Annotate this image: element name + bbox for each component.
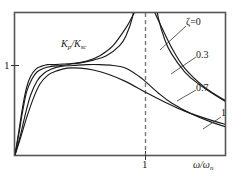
- curve-label-zeta-0: ζ=0: [186, 17, 201, 27]
- frequency-response-chart: 1 1 Kp/Ksc ω/ωn ζ=0 0.3 0.7 1: [0, 0, 240, 178]
- curve-label-0-3: 0.3: [196, 50, 209, 60]
- curve-label-0-7: 0.7: [196, 83, 209, 93]
- x-axis-label-sub-n: n: [210, 164, 214, 172]
- x-axis-label-omega: ω/ω: [193, 159, 210, 170]
- x-axis-tick-label-1: 1: [142, 159, 148, 170]
- x-axis-label: ω/ωn: [193, 160, 213, 172]
- y-axis-label-slash-K: /K: [71, 38, 80, 49]
- y-axis-label: Kp/Ksc: [61, 39, 86, 51]
- y-axis-tick-label-1: 1: [4, 60, 10, 71]
- y-axis-label-sub-sc: sc: [81, 43, 87, 51]
- y-axis-label-K: K: [61, 38, 68, 49]
- curve-label-1: 1: [221, 108, 226, 118]
